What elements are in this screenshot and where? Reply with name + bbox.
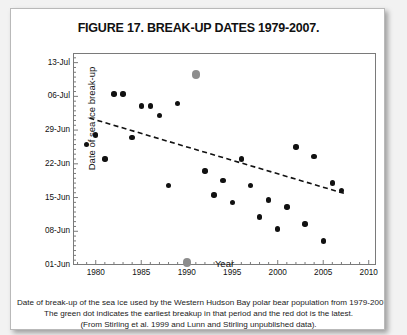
data-point <box>102 156 107 161</box>
caption-line-3: (From Stirling et al. 1999 and Lunn and … <box>17 319 380 330</box>
figure-caption: Date of break-up of the sea ice used by … <box>17 297 380 330</box>
x-tick-label: 2005 <box>303 268 343 277</box>
figure-title: FIGURE 17. BREAK-UP DATES 1979-2007. <box>11 21 385 35</box>
data-point <box>339 188 344 193</box>
plot-svg-layer <box>73 53 376 265</box>
x-tick-label: 2010 <box>349 268 385 277</box>
figure-card: FIGURE 17. BREAK-UP DATES 1979-2007. 01-… <box>10 8 385 330</box>
data-point <box>266 197 271 202</box>
y-tick-label: 15-Jun <box>10 193 70 202</box>
data-point <box>230 200 235 205</box>
caption-line-1: Date of break-up of the sea ice used by … <box>17 297 380 308</box>
data-point <box>111 91 116 96</box>
y-axis-label: Date of sea ice break-up <box>86 49 97 189</box>
x-axis-label: Year <box>73 258 376 269</box>
data-point <box>293 144 298 149</box>
x-tick-label: 1985 <box>121 268 161 277</box>
data-point <box>148 103 153 108</box>
y-tick-label: 29-Jun <box>10 125 70 134</box>
data-point <box>330 180 335 185</box>
x-tick-label: 2000 <box>258 268 298 277</box>
axis-ticks <box>73 53 369 265</box>
scatter-plot: 01-Jun08-Jun15-Jun22-Jun29-Jun06-Jul13-J… <box>73 53 376 275</box>
data-point <box>139 103 144 108</box>
data-point <box>275 226 280 231</box>
x-tick-label: 1995 <box>212 268 252 277</box>
data-point <box>120 91 125 96</box>
data-point <box>239 156 244 161</box>
data-point <box>129 135 134 140</box>
x-tick-label: 1980 <box>76 268 116 277</box>
data-point <box>321 238 326 243</box>
page-background: FIGURE 17. BREAK-UP DATES 1979-2007. 01-… <box>0 0 407 335</box>
data-point <box>284 204 289 209</box>
y-tick-label: 22-Jun <box>10 159 70 168</box>
x-tick-label: 1990 <box>167 268 207 277</box>
data-point <box>257 214 262 219</box>
data-point <box>302 221 307 226</box>
data-point <box>211 192 216 197</box>
data-point <box>202 168 207 173</box>
y-tick-label: 06-Jul <box>10 91 70 100</box>
y-tick-label: 08-Jun <box>10 226 70 235</box>
y-tick-label: 01-Jun <box>10 260 70 269</box>
data-point <box>311 154 316 159</box>
y-tick-label: 13-Jul <box>10 58 70 67</box>
data-point-latest <box>192 70 200 78</box>
caption-line-2: The green dot indicates the earliest bre… <box>17 308 380 319</box>
trend-line <box>89 118 345 194</box>
